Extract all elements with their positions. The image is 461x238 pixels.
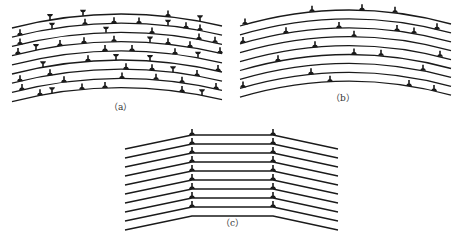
dislocation-positive-icon — [189, 138, 195, 144]
dislocation-positive-icon — [309, 6, 315, 12]
dislocation-negative-icon — [103, 27, 109, 33]
dislocation-positive-icon — [119, 72, 125, 78]
slip-plane-line — [125, 144, 338, 158]
dislocation-positive-icon — [392, 7, 398, 13]
dislocation-positive-icon — [336, 22, 342, 28]
dislocation-positive-icon — [240, 37, 246, 43]
dislocation-positive-icon — [270, 129, 276, 135]
dislocation-positive-icon — [240, 81, 246, 87]
dislocation-positive-icon — [102, 45, 108, 51]
dislocation-positive-icon — [17, 38, 23, 44]
dislocation-positive-icon — [359, 4, 365, 10]
panel-a-label: （a） — [109, 102, 132, 112]
dislocation-positive-icon — [19, 84, 25, 90]
panel-c-polygonized-walls — [125, 129, 338, 230]
dislocation-positive-icon — [179, 77, 185, 83]
slip-plane-line — [125, 189, 338, 203]
dislocation-positive-icon — [183, 22, 189, 28]
dislocation-positive-icon — [378, 50, 384, 56]
dislocation-positive-icon — [17, 75, 23, 81]
dislocation-positive-icon — [102, 82, 108, 88]
dislocation-positive-icon — [61, 76, 67, 82]
dislocation-positive-icon — [165, 38, 171, 44]
dislocation-negative-icon — [80, 10, 86, 16]
slip-plane-line — [12, 88, 222, 102]
dislocation-positive-icon — [17, 29, 23, 35]
dislocation-positive-icon — [37, 89, 43, 95]
dislocation-positive-icon — [434, 23, 440, 29]
slip-plane-line — [240, 37, 451, 53]
dislocation-positive-icon — [394, 25, 400, 31]
dislocation-positive-icon — [179, 86, 185, 92]
dislocation-diagram: （a） （b） （c） — [0, 0, 461, 238]
slip-plane-line — [125, 198, 338, 212]
dislocation-positive-icon — [411, 27, 417, 33]
dislocation-positive-icon — [420, 65, 426, 71]
slip-plane-line — [240, 63, 451, 79]
slip-plane-line — [12, 69, 222, 83]
dislocation-positive-icon — [213, 83, 219, 89]
slip-plane-line — [240, 72, 451, 88]
dislocation-negative-icon — [165, 20, 171, 26]
dislocation-positive-icon — [197, 25, 203, 31]
slip-plane-line — [125, 162, 338, 176]
dislocation-positive-icon — [270, 147, 276, 153]
dislocation-positive-icon — [47, 69, 53, 75]
panel-b-one-sign-dislocations — [240, 4, 451, 97]
slip-plane-line — [12, 14, 222, 28]
dislocation-positive-icon — [129, 45, 135, 51]
dislocation-negative-icon — [147, 55, 153, 61]
dislocation-positive-icon — [217, 47, 223, 53]
dislocation-positive-icon — [270, 183, 276, 189]
dislocation-positive-icon — [85, 55, 91, 61]
dislocation-positive-icon — [312, 41, 318, 47]
dislocation-positive-icon — [212, 37, 218, 43]
dislocation-positive-icon — [111, 36, 117, 42]
dislocation-positive-icon — [327, 76, 333, 82]
dislocation-positive-icon — [111, 17, 117, 23]
dislocation-negative-icon — [147, 37, 153, 43]
dislocation-positive-icon — [189, 165, 195, 171]
dislocation-positive-icon — [189, 156, 195, 162]
slip-plane-line — [240, 46, 451, 62]
dislocation-positive-icon — [194, 70, 200, 76]
dislocation-positive-icon — [172, 48, 178, 54]
dislocation-positive-icon — [270, 201, 276, 207]
dislocation-positive-icon — [270, 192, 276, 198]
dislocation-positive-icon — [189, 129, 195, 135]
slip-plane-line — [125, 180, 338, 194]
dislocation-positive-icon — [15, 48, 21, 54]
dislocation-positive-icon — [82, 19, 88, 25]
dislocation-positive-icon — [270, 165, 276, 171]
dislocation-positive-icon — [123, 63, 129, 69]
dislocation-positive-icon — [308, 68, 314, 74]
dislocation-positive-icon — [242, 19, 248, 25]
dislocation-positive-icon — [81, 37, 87, 43]
dislocation-positive-icon — [283, 27, 289, 33]
dislocation-positive-icon — [196, 34, 202, 40]
dislocation-positive-icon — [351, 49, 357, 55]
dislocation-positive-icon — [406, 80, 412, 86]
dislocation-positive-icon — [431, 85, 437, 91]
dislocation-positive-icon — [270, 174, 276, 180]
dislocation-positive-icon — [189, 183, 195, 189]
dislocation-positive-icon — [275, 55, 281, 61]
dislocation-positive-icon — [149, 28, 155, 34]
dislocation-positive-icon — [437, 51, 443, 57]
dislocation-positive-icon — [165, 11, 171, 17]
dislocation-positive-icon — [215, 65, 221, 71]
dislocation-positive-icon — [270, 138, 276, 144]
dislocation-positive-icon — [351, 31, 357, 37]
dislocation-positive-icon — [270, 156, 276, 162]
dislocation-positive-icon — [136, 18, 142, 24]
slip-plane-line — [240, 10, 451, 26]
panel-b-label: （b） — [331, 93, 355, 103]
slip-plane-line — [125, 171, 338, 185]
dislocation-positive-icon — [187, 41, 193, 47]
dislocation-positive-icon — [149, 64, 155, 70]
dislocation-positive-icon — [79, 83, 85, 89]
dislocation-positive-icon — [189, 147, 195, 153]
dislocation-positive-icon — [189, 174, 195, 180]
slip-plane-line — [240, 28, 451, 44]
dislocation-positive-icon — [57, 40, 63, 46]
